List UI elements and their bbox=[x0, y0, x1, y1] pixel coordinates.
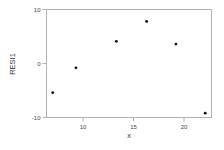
y-tick-label: -10 bbox=[32, 115, 41, 121]
x-tick-label: 10 bbox=[80, 124, 87, 130]
data-point bbox=[75, 66, 78, 69]
y-tick-label: 10 bbox=[34, 7, 41, 13]
data-point bbox=[145, 20, 148, 23]
x-tick-label: 15 bbox=[130, 124, 137, 130]
y-tick-label: 0 bbox=[37, 61, 41, 67]
x-axis-title: x bbox=[127, 131, 131, 140]
x-axis: 101520 bbox=[80, 118, 188, 130]
data-point bbox=[204, 112, 207, 115]
x-tick-label: 20 bbox=[181, 124, 188, 130]
data-point bbox=[175, 43, 178, 46]
y-axis-title: RESI1 bbox=[8, 53, 17, 75]
data-point bbox=[115, 40, 118, 43]
data-point bbox=[51, 91, 54, 94]
data-points bbox=[51, 20, 206, 115]
y-axis: -10010 bbox=[32, 7, 47, 121]
scatter-chart: -10010 101520 x RESI1 bbox=[0, 0, 224, 150]
plot-frame bbox=[47, 10, 212, 118]
